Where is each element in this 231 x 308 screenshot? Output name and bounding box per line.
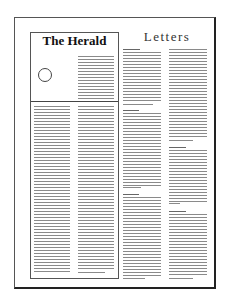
letter-headline	[123, 49, 140, 50]
article-column-2-last-line	[78, 272, 105, 273]
masthead-title: The Herald	[30, 33, 119, 48]
letter-last-line	[123, 278, 145, 279]
letter-headline	[123, 110, 139, 111]
letter-body	[169, 214, 207, 277]
letter-body	[123, 52, 161, 103]
article-column-2	[78, 106, 114, 271]
letters-heading: Letters	[121, 29, 213, 44]
letter-last-line	[169, 203, 180, 204]
letter-last-line	[123, 104, 153, 105]
article-column-1	[34, 106, 70, 274]
letter-body	[123, 197, 161, 277]
article-divider	[31, 101, 118, 102]
letter-headline	[123, 194, 139, 195]
letter-last-line	[169, 278, 193, 279]
letter-last-line	[123, 187, 141, 188]
intro-text-block	[78, 56, 114, 100]
letter-body	[169, 150, 207, 202]
letter-headline	[169, 147, 186, 148]
letter-body	[123, 113, 161, 186]
letter-last-line	[169, 140, 193, 141]
letter-headline	[169, 211, 186, 212]
photo-circle-icon	[38, 68, 52, 82]
letter-body	[169, 49, 207, 139]
